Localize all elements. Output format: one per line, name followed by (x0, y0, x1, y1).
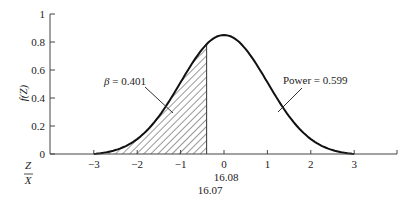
x-tick-label: 3 (351, 158, 357, 170)
xbar-value-1: 16.08 (214, 171, 239, 183)
chart-canvas: 00.20.40.60.81 −3−2−10123 f(Z) Z X 16.08… (0, 0, 413, 207)
power-annotation: Power = 0.599 (283, 74, 348, 86)
xbar-value-2: 16.07 (198, 184, 223, 196)
beta-shaded-region (94, 44, 207, 154)
beta-annotation: β = 0.401 (103, 75, 146, 87)
y-axis-ticks: 00.20.40.60.81 (31, 8, 55, 160)
x-tick-label: 1 (265, 158, 271, 170)
x-tick-label: 2 (308, 158, 314, 170)
x-tick-label: −2 (131, 158, 143, 170)
density-curve (94, 35, 354, 154)
power-leader-line (278, 88, 302, 112)
y-tick-label: 1 (40, 8, 46, 20)
x-tick-label: −3 (88, 158, 100, 170)
y-axis-label: f(Z) (17, 84, 30, 101)
y-tick-label: 0.4 (31, 92, 45, 104)
x-axis-label-z: Z (25, 159, 32, 171)
y-tick-label: 0.8 (31, 36, 45, 48)
y-tick-label: 0 (40, 148, 46, 160)
x-axis-label-xbar: X (24, 174, 33, 186)
y-tick-label: 0.2 (31, 120, 45, 132)
x-tick-label: −1 (175, 158, 187, 170)
y-tick-label: 0.6 (31, 64, 45, 76)
x-tick-label: 0 (221, 158, 227, 170)
